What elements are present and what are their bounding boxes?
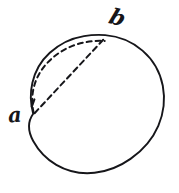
geometry-figure: a b: [0, 0, 179, 193]
point-label-a: a: [7, 104, 22, 126]
figure-canvas: [0, 0, 179, 193]
figure-background: [0, 0, 179, 193]
